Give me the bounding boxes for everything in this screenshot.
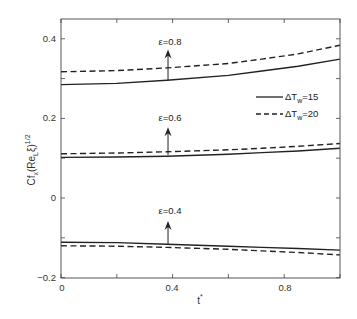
axes-frame <box>61 19 340 278</box>
y-axis-label: Cfx(ReLξ)1/2 <box>24 134 39 185</box>
x-tick-label: 0.4 <box>165 282 178 293</box>
line-chart: 0.4 0.2 0 −0.2 0 0.4 0.8 t* Cfx(ReLξ)1/2… <box>0 0 357 319</box>
x-axis-label: t* <box>197 293 203 306</box>
legend-label-dtw15: ΔTw=15 <box>285 91 318 104</box>
annotation-eps-04: ε=0.4 <box>159 205 182 216</box>
y-tick-label: 0.2 <box>43 112 56 123</box>
y-tick-label: −0.2 <box>37 272 56 283</box>
y-tick-label: 0 <box>51 192 56 203</box>
series-line-3 <box>61 144 340 154</box>
legend: ΔTw=15 ΔTw=20 <box>256 91 318 121</box>
axis-ticks <box>61 19 340 278</box>
plot-area <box>61 45 340 255</box>
x-tick-label: 0.8 <box>278 282 291 293</box>
annotation-eps-06: ε=0.6 <box>159 112 182 123</box>
series-line-1 <box>61 45 340 72</box>
series-line-0 <box>61 59 340 85</box>
x-tick-label: 0 <box>59 282 64 293</box>
series-line-5 <box>61 246 340 255</box>
annotation-eps-08: ε=0.8 <box>159 36 182 47</box>
y-tick-label: 0.4 <box>43 33 56 44</box>
legend-label-dtw20: ΔTw=20 <box>285 108 318 121</box>
